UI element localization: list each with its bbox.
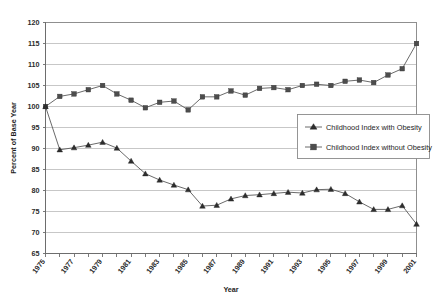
x-axis-title: Year	[223, 285, 238, 294]
y-tick-label-90: 90	[32, 144, 40, 153]
data-point-without-obesity-1996	[343, 79, 348, 84]
y-tick-label-105: 105	[28, 81, 40, 90]
y-tick-label-110: 110	[28, 60, 40, 69]
data-point-without-obesity-1998	[371, 80, 376, 85]
data-point-without-obesity-1977	[72, 92, 77, 97]
data-point-without-obesity-1989	[243, 93, 248, 98]
data-point-without-obesity-1984	[172, 99, 177, 104]
y-tick-label-95: 95	[32, 123, 40, 132]
legend-box-border	[298, 115, 430, 159]
data-point-without-obesity-1995	[329, 83, 334, 88]
y-tick-label-70: 70	[32, 228, 40, 237]
legend-label-without-obesity: Childhood Index without Obesity	[326, 143, 432, 152]
y-tick-label-115: 115	[28, 39, 40, 48]
chart-legend: Childhood Index with Obesity Childhood I…	[298, 115, 433, 159]
y-tick-label-100: 100	[28, 102, 40, 111]
data-point-without-obesity-1992	[286, 87, 291, 92]
data-point-without-obesity-1991	[272, 85, 277, 90]
data-point-without-obesity-1994	[314, 82, 319, 87]
data-point-without-obesity-1990	[257, 86, 262, 91]
data-point-without-obesity-2001	[414, 41, 419, 46]
data-point-without-obesity-1976	[57, 94, 62, 99]
square-marker-icon	[311, 144, 317, 150]
data-point-without-obesity-1999	[386, 73, 391, 78]
data-point-without-obesity-1982	[143, 105, 148, 110]
data-point-without-obesity-1980	[115, 92, 120, 97]
data-point-without-obesity-1981	[129, 98, 134, 103]
legend-label-with-obesity: Childhood Index with Obesity	[326, 123, 422, 132]
y-tick-label-85: 85	[32, 165, 40, 174]
data-point-without-obesity-1978	[86, 87, 91, 92]
data-point-without-obesity-1993	[300, 83, 305, 88]
line-chart-canvas: 65707580859095100105110115120 1975197719…	[0, 0, 439, 305]
chart-figure: 65707580859095100105110115120 1975197719…	[0, 0, 439, 305]
data-point-without-obesity-1987	[214, 95, 219, 100]
data-point-without-obesity-1979	[100, 83, 105, 88]
data-point-without-obesity-1983	[157, 100, 162, 105]
y-tick-label-65: 65	[32, 249, 40, 258]
y-tick-label-75: 75	[32, 207, 40, 216]
data-point-without-obesity-1985	[186, 108, 191, 113]
data-point-without-obesity-1988	[229, 89, 234, 94]
y-axis-title: Percent of Base Year	[9, 102, 18, 174]
data-point-without-obesity-1997	[357, 78, 362, 83]
y-tick-label-80: 80	[32, 186, 40, 195]
data-point-without-obesity-1986	[200, 95, 205, 100]
data-point-without-obesity-2000	[400, 66, 405, 71]
y-tick-label-120: 120	[28, 18, 40, 27]
